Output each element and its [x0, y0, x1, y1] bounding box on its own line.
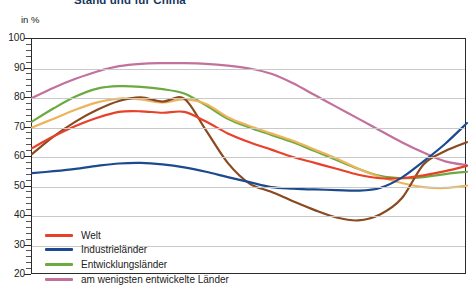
- gridline: [32, 187, 465, 188]
- y-axis-major-tick: [24, 97, 31, 98]
- chart-legend: WeltIndustrieländerEntwicklungsländeram …: [45, 228, 335, 286]
- legend-item[interactable]: Entwicklungsländer: [45, 257, 335, 272]
- legend-item-label: Industrieländer: [81, 244, 147, 255]
- y-axis-major-tick: [24, 68, 31, 69]
- gridline: [32, 69, 465, 70]
- gridline: [32, 98, 465, 99]
- y-axis-tick-label: 100: [0, 32, 25, 43]
- series-line-welt: [32, 111, 467, 179]
- y-axis-major-tick: [24, 156, 31, 157]
- y-axis-tick-label: 50: [0, 180, 25, 191]
- y-axis-major-tick: [24, 127, 31, 128]
- y-axis-major-tick: [24, 186, 31, 187]
- y-axis-labels: 2030405060708090100: [0, 0, 29, 286]
- legend-item-label: am wenigsten entwickelte Länder: [81, 274, 229, 285]
- y-axis-tick-label: 70: [0, 121, 25, 132]
- gridline: [32, 128, 465, 129]
- legend-item-label: Entwicklungsländer: [81, 259, 167, 270]
- y-axis-major-tick: [24, 274, 31, 275]
- series-line-entwicklungsl-nder: [32, 86, 467, 178]
- chart-screenshot: Stand und für China in % 203040506070809…: [0, 0, 475, 286]
- y-axis-tick-label: 40: [0, 209, 25, 220]
- gridline: [32, 157, 465, 158]
- legend-item[interactable]: Welt: [45, 228, 335, 243]
- chart-title: Stand und für China: [74, 0, 334, 5]
- legend-color-swatch: [45, 278, 73, 281]
- y-axis-tick-label: 30: [0, 239, 25, 250]
- y-axis-tick-label: 80: [0, 91, 25, 102]
- legend-color-swatch: [45, 234, 73, 237]
- y-axis-tick-label: 20: [0, 268, 25, 279]
- legend-item[interactable]: Industrieländer: [45, 243, 335, 258]
- y-axis-tick-label: 60: [0, 150, 25, 161]
- gridline: [32, 216, 465, 217]
- legend-item-label: Welt: [81, 230, 101, 241]
- y-axis-major-tick: [24, 245, 31, 246]
- series-line-brown: [32, 97, 467, 220]
- legend-item[interactable]: am wenigsten entwickelte Länder: [45, 272, 335, 286]
- y-axis-tick-label: 90: [0, 62, 25, 73]
- y-axis-major-tick: [24, 215, 31, 216]
- legend-color-swatch: [45, 248, 73, 251]
- y-axis-major-tick: [24, 38, 31, 39]
- series-line-am-wenigsten-entwickelte-l-nder: [32, 63, 467, 165]
- legend-color-swatch: [45, 263, 73, 266]
